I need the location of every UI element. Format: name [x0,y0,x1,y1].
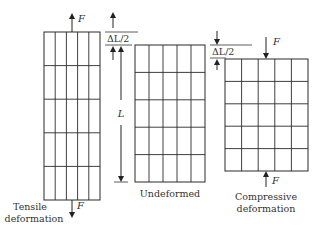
undeformed-grid-border [135,45,205,182]
tensile-grid [44,32,100,200]
tensile-top-force-arrow [69,13,75,32]
tensile-caption-line1: Tensile [13,201,47,212]
compressive-caption-line2: deformation [237,203,296,214]
tensile-top-force-label: F [77,13,86,24]
length-label: L [117,108,125,119]
compressive-top-force-arrow [263,37,269,59]
compressive-caption-line1: Compressive [235,191,297,202]
tensile-grid-border [44,32,100,200]
tensile-caption-line2: deformation [5,213,64,224]
tensile-bottom-force-label: F [76,200,85,211]
undeformed-grid [135,45,205,182]
compressive-grid [225,59,308,171]
compressive-grid-border [225,59,308,171]
compressive-bottom-force-label: F [271,175,280,186]
compressive-delta-label: ΔL/2 [212,46,234,57]
compressive-top-force-label: F [272,36,281,47]
tensile-bottom-force-arrow [69,200,75,218]
compressive-bottom-force-arrow [263,171,269,187]
deformation-diagram: F F Tensile deformation ΔL/2 L Undeforme… [0,0,325,234]
undeformed-caption: Undeformed [140,188,200,199]
tensile-delta-label: ΔL/2 [107,33,129,44]
